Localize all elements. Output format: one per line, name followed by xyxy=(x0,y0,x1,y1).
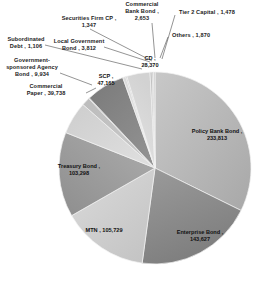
label-gov-agency-line3: Bond , 9,934 xyxy=(15,71,49,77)
label-gov-agency-line2: sponsored Agency xyxy=(6,64,58,70)
label-commercial-paper-line1: Commercial xyxy=(29,83,62,89)
label-treasury-bond-line2: 103,298 xyxy=(69,170,89,176)
label-subordinated-debt-line1: Subordinated xyxy=(7,36,44,42)
label-cd: CD , 28,370 xyxy=(130,55,170,69)
label-securities-firm-cp-name: Securities Firm CP , xyxy=(62,15,117,21)
label-enterprise-bond-line1: Enterprise Bond , xyxy=(177,229,224,235)
label-commercial-bank-bond: Commercial Bank Bond , 2,653 xyxy=(113,1,171,23)
label-cd-line2: 28,370 xyxy=(141,62,158,68)
label-scp: SCP , 47,165 xyxy=(86,73,126,87)
label-commercial-bank-bond-line2: Bank Bond , xyxy=(125,8,159,14)
label-gov-agency-line1: Government- xyxy=(14,57,50,63)
label-treasury-bond: Treasury Bond , 103,298 xyxy=(42,163,116,177)
leader-commercial-paper xyxy=(86,88,96,93)
leader-commercial-bank-bond xyxy=(152,23,155,58)
label-scp-line2: 47,165 xyxy=(97,80,114,86)
label-securities-firm-cp-value: 1,347 xyxy=(82,22,97,28)
label-policy-bank-bond: Policy Bank Bond , 233,813 xyxy=(182,128,252,142)
label-local-government-bond: Local Government Bond , 3,812 xyxy=(48,38,110,52)
label-subordinated-debt: Subordinated Debt , 1,106 xyxy=(2,36,50,50)
pie-chart: Securities Firm CP , 1,347 Commercial Ba… xyxy=(0,0,273,284)
label-cd-line1: CD , xyxy=(144,55,155,61)
label-enterprise-bond-line2: 143,627 xyxy=(190,236,210,242)
label-commercial-paper: Commercial Paper , 39,738 xyxy=(10,83,82,97)
label-local-government-bond-line1: Local Government xyxy=(54,38,105,44)
label-commercial-paper-line2: Paper , 39,738 xyxy=(27,90,66,96)
label-gov-sponsored-agency-bond: Government- sponsored Agency Bond , 9,93… xyxy=(0,57,64,79)
label-tier2-capital: Tier 2 Capital , 1,478 xyxy=(179,9,271,16)
label-commercial-bank-bond-line1: Commercial xyxy=(125,1,158,7)
label-enterprise-bond: Enterprise Bond , 143,627 xyxy=(164,229,236,243)
label-commercial-bank-bond-line3: 2,653 xyxy=(135,15,150,21)
label-subordinated-debt-line2: Debt , 1,106 xyxy=(10,43,42,49)
label-policy-bank-bond-line1: Policy Bank Bond , xyxy=(192,128,243,134)
label-mtn: MTN , 105,729 xyxy=(62,227,146,234)
label-treasury-bond-line1: Treasury Bond , xyxy=(58,163,100,169)
label-local-government-bond-line2: Bond , 3,812 xyxy=(62,45,96,51)
label-others: Others , 1,870 xyxy=(172,32,242,39)
label-policy-bank-bond-line2: 233,813 xyxy=(207,135,227,141)
label-scp-line1: SCP , xyxy=(99,73,114,79)
